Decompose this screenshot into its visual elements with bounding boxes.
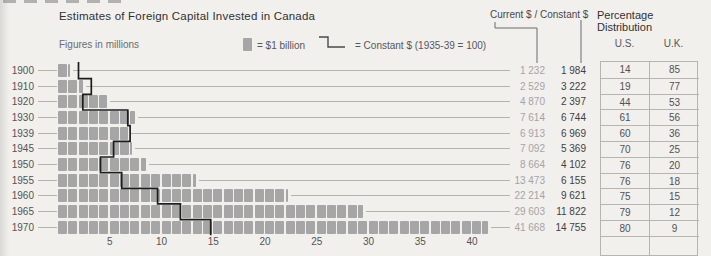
bar-square bbox=[213, 205, 222, 218]
bar-square bbox=[99, 142, 108, 155]
bar-square bbox=[244, 189, 253, 202]
bar-square bbox=[224, 205, 233, 218]
bar-square bbox=[58, 127, 67, 140]
bar-square-partial bbox=[120, 127, 128, 140]
bar-square bbox=[68, 127, 77, 140]
percentage-table: 1485197744536156603670257620761875157912… bbox=[600, 61, 698, 256]
current-dollar-value: 4 870 bbox=[505, 95, 545, 108]
bar-square bbox=[89, 127, 98, 140]
pct-empty-cell bbox=[650, 236, 699, 256]
x-tick: 15 bbox=[201, 236, 225, 247]
row-leader-left bbox=[38, 86, 57, 87]
constant-dollar-value: 1 984 bbox=[546, 64, 586, 77]
pct-uk-cell: 25 bbox=[650, 141, 699, 157]
row-leader-left bbox=[38, 70, 57, 71]
bar-square bbox=[68, 142, 77, 155]
year-label: 1950 bbox=[0, 158, 34, 171]
bar-square bbox=[441, 221, 450, 234]
bar-square-partial bbox=[193, 174, 197, 187]
pct-uk-cell: 53 bbox=[650, 94, 699, 110]
pct-empty-cell bbox=[601, 236, 650, 256]
pct-us-cell: 75 bbox=[601, 188, 650, 204]
bar-square bbox=[286, 221, 295, 234]
bar-square bbox=[58, 142, 67, 155]
bar-square bbox=[89, 95, 98, 108]
bar-square bbox=[234, 205, 243, 218]
bar-square bbox=[110, 127, 119, 140]
bar-square bbox=[130, 221, 139, 234]
bar-square bbox=[99, 127, 108, 140]
pct-us-cell: 80 bbox=[601, 220, 650, 236]
pct-us-cell: 79 bbox=[601, 204, 650, 220]
bar-square bbox=[337, 205, 346, 218]
bar-square bbox=[296, 221, 305, 234]
bar-square bbox=[348, 205, 357, 218]
bar-square bbox=[379, 221, 388, 234]
bar-square bbox=[120, 205, 129, 218]
bar-square bbox=[462, 221, 471, 234]
column-bracket-lines bbox=[488, 18, 588, 64]
row-gridline bbox=[149, 164, 510, 165]
constant-dollar-value: 9 621 bbox=[546, 189, 586, 202]
x-tick: 20 bbox=[253, 236, 277, 247]
bar-square bbox=[58, 174, 67, 187]
bar-square bbox=[255, 205, 264, 218]
bar-square bbox=[99, 221, 108, 234]
bar-square bbox=[79, 189, 88, 202]
bar-square bbox=[58, 158, 67, 171]
bar-square bbox=[58, 221, 67, 234]
bar-square bbox=[286, 205, 295, 218]
constant-dollar-value: 6 969 bbox=[546, 127, 586, 140]
bar-square bbox=[172, 205, 181, 218]
current-dollar-value: 29 603 bbox=[505, 205, 545, 218]
bar-square-partial bbox=[141, 158, 147, 171]
bar-square-partial bbox=[68, 64, 70, 77]
bar-square bbox=[89, 158, 98, 171]
bar-square bbox=[68, 221, 77, 234]
constant-dollar-value: 11 822 bbox=[546, 205, 586, 218]
bar-square bbox=[451, 221, 460, 234]
year-label: 1970 bbox=[0, 221, 34, 234]
bar-square bbox=[162, 174, 171, 187]
bar-square bbox=[99, 205, 108, 218]
current-dollar-value: 7 614 bbox=[505, 111, 545, 124]
bar-square bbox=[162, 221, 171, 234]
bar-square bbox=[275, 205, 284, 218]
bar-square bbox=[224, 221, 233, 234]
x-tick: 35 bbox=[408, 236, 432, 247]
bar-square bbox=[265, 189, 274, 202]
pct-uk-cell: 20 bbox=[650, 157, 699, 173]
bar-square bbox=[420, 221, 429, 234]
bar-square bbox=[182, 221, 191, 234]
current-dollar-value: 41 668 bbox=[505, 221, 545, 234]
row-leader-left bbox=[38, 180, 57, 181]
bar-square bbox=[151, 189, 160, 202]
bar-square bbox=[193, 189, 202, 202]
constant-dollar-value: 6 744 bbox=[546, 111, 586, 124]
x-tick: 40 bbox=[460, 236, 484, 247]
bar-square bbox=[99, 189, 108, 202]
year-label: 1955 bbox=[0, 174, 34, 187]
bar-square bbox=[99, 174, 108, 187]
bar-square bbox=[110, 158, 119, 171]
bar-square bbox=[89, 142, 98, 155]
pct-uk-cell: 56 bbox=[650, 109, 699, 125]
constant-dollar-value: 2 397 bbox=[546, 95, 586, 108]
bar-square bbox=[130, 174, 139, 187]
bar-square bbox=[224, 189, 233, 202]
bar-square bbox=[182, 205, 191, 218]
bar-square bbox=[234, 189, 243, 202]
bar-square bbox=[389, 221, 398, 234]
pct-uk-cell: 36 bbox=[650, 125, 699, 141]
bar-square bbox=[213, 221, 222, 234]
current-dollar-value: 22 214 bbox=[505, 189, 545, 202]
bar-square bbox=[58, 205, 67, 218]
pct-uk-cell: 9 bbox=[650, 220, 699, 236]
bar-square bbox=[182, 174, 191, 187]
row-gridline bbox=[138, 117, 510, 118]
bar-square bbox=[172, 174, 181, 187]
pct-us-cell: 70 bbox=[601, 141, 650, 157]
bar-square bbox=[369, 221, 378, 234]
bar-square bbox=[275, 189, 284, 202]
x-tick: 5 bbox=[98, 236, 122, 247]
